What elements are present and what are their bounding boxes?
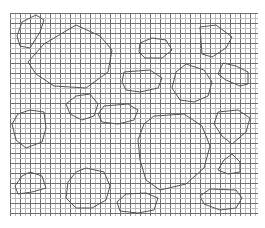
outline-shape-s5: [218, 63, 248, 86]
grid-figure: [0, 0, 265, 228]
grid-lines: [10, 13, 258, 216]
